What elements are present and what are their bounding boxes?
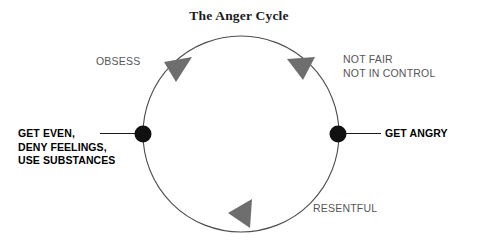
arrow-top-left-icon bbox=[164, 57, 192, 82]
node-label-get-angry: GET ANGRY bbox=[385, 127, 448, 141]
cycle-graphic bbox=[0, 0, 478, 252]
arrow-bottom-icon bbox=[228, 199, 252, 228]
stage-label-not-fair-line-1: NOT FAIR bbox=[343, 53, 435, 67]
node-label-get-even: GET EVEN, DENY FEELINGS, USE SUBSTANCES bbox=[18, 127, 115, 168]
node-label-get-even-line-2: DENY FEELINGS, bbox=[18, 141, 115, 155]
stage-label-obsess: OBSESS bbox=[96, 55, 140, 69]
stage-label-not-fair: NOT FAIR NOT IN CONTROL bbox=[343, 53, 435, 80]
node-label-get-even-line-3: USE SUBSTANCES bbox=[18, 154, 115, 168]
arrow-top-right-icon bbox=[287, 57, 315, 80]
anger-cycle-diagram: The Anger Cycle GET EVEN, DENY FEELINGS,… bbox=[0, 0, 478, 252]
stage-label-obsess-line-1: OBSESS bbox=[96, 55, 140, 69]
node-label-get-even-line-1: GET EVEN, bbox=[18, 127, 115, 141]
stage-label-resentful: RESENTFUL bbox=[313, 202, 377, 216]
node-label-get-angry-line-1: GET ANGRY bbox=[385, 127, 448, 141]
stage-label-resentful-line-1: RESENTFUL bbox=[313, 202, 377, 216]
node-dot-get-even bbox=[135, 126, 152, 143]
stage-label-not-fair-line-2: NOT IN CONTROL bbox=[343, 67, 435, 81]
node-dot-get-angry bbox=[330, 126, 347, 143]
